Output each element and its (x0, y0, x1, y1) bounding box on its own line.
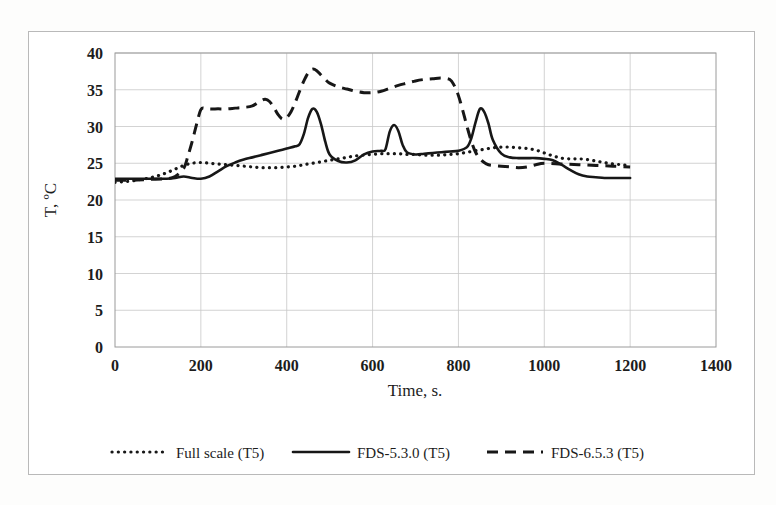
x-tick-label-1000: 1000 (528, 357, 560, 374)
legend-label-2: FDS-6.5.3 (T5) (551, 445, 644, 462)
x-tick-label-200: 200 (189, 357, 213, 374)
y-gridlines (115, 53, 716, 347)
y-tick-label-20: 20 (87, 192, 103, 209)
x-tick-label-1400: 1400 (700, 357, 732, 374)
legend-item-2: FDS-6.5.3 (T5) (487, 445, 644, 462)
x-tick-label-600: 600 (361, 357, 385, 374)
x-tick-label-800: 800 (446, 357, 470, 374)
figure-container: 0200400600800100012001400 05101520253035… (0, 0, 776, 505)
y-tick-label-40: 40 (87, 45, 103, 62)
x-axis-tick-labels: 0200400600800100012001400 (111, 357, 732, 374)
y-tick-label-35: 35 (87, 82, 103, 99)
y-tick-label-0: 0 (95, 339, 103, 356)
y-tick-label-15: 15 (87, 229, 103, 246)
x-tick-label-400: 400 (275, 357, 299, 374)
temperature-time-chart: 0200400600800100012001400 05101520253035… (0, 0, 776, 505)
legend-item-0: Full scale (T5) (112, 445, 264, 462)
x-tick-label-1200: 1200 (614, 357, 646, 374)
y-tick-label-25: 25 (87, 155, 103, 172)
x-axis-title: Time, s. (388, 381, 443, 400)
y-tick-label-5: 5 (95, 302, 103, 319)
legend-label-0: Full scale (T5) (176, 445, 264, 462)
chart-legend: Full scale (T5)FDS-5.3.0 (T5)FDS-6.5.3 (… (112, 445, 644, 462)
y-axis-title: T, ºC (41, 183, 60, 217)
x-tick-label-0: 0 (111, 357, 119, 374)
legend-label-1: FDS-5.3.0 (T5) (357, 445, 450, 462)
legend-item-1: FDS-5.3.0 (T5) (293, 445, 450, 462)
y-tick-label-30: 30 (87, 119, 103, 136)
y-tick-label-10: 10 (87, 266, 103, 283)
y-axis-tick-labels: 0510152025303540 (87, 45, 103, 356)
